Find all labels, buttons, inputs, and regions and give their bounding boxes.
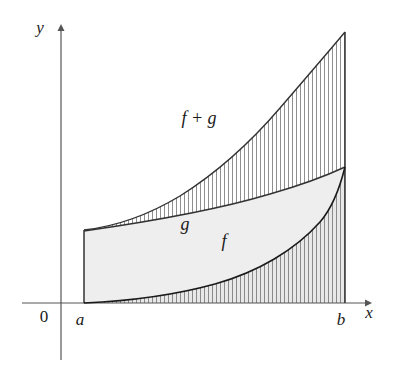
point-label-b: b	[337, 310, 346, 329]
curve-label-g: g	[181, 214, 190, 234]
origin-label: 0	[40, 307, 49, 326]
curve-label-f-plus-g: f + g	[181, 108, 216, 128]
y-axis-label: y	[34, 18, 44, 37]
point-label-a: a	[76, 310, 85, 329]
figure-container: y x 0 a b f + g g f	[0, 0, 394, 366]
area-diagram-svg: y x 0 a b f + g g f	[0, 0, 394, 366]
x-axis-label: x	[364, 303, 373, 322]
